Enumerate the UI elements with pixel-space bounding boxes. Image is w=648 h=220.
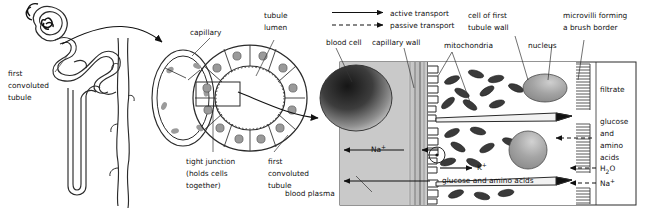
- label-glucose-in-line1: glucose: [600, 117, 629, 126]
- label-glucose-in-line4: acids: [600, 153, 619, 162]
- capillary-nucleus: [160, 101, 168, 110]
- label-first-convoluted-tubule-mid-line2: convoluted: [268, 169, 309, 178]
- leader-capillary: [192, 38, 210, 56]
- label-capillary-wall: capillary wall: [372, 38, 420, 47]
- loop-of-henle: [68, 86, 100, 195]
- figure-root: first convoluted tubule: [0, 0, 648, 220]
- blood-cell: [320, 65, 392, 131]
- zoom-arrow-overview-to-cross-section: [62, 26, 162, 44]
- panel-tubule-cell-detail: active transport passive transport: [285, 9, 636, 206]
- label-capillary: capillary: [190, 28, 222, 37]
- glomerulus: [26, 4, 67, 41]
- label-glucose-in-line3: amino: [600, 141, 623, 150]
- panel-nephron-overview: first convoluted tubule: [8, 4, 162, 208]
- label-blood-cell: blood cell: [326, 38, 362, 47]
- label-tight-junction-line3: together): [186, 181, 221, 190]
- label-blood-plasma: blood plasma: [285, 189, 335, 198]
- label-glucose-amino-acids-out: glucose and amino acids: [442, 176, 534, 185]
- capillary-nucleus: [170, 127, 179, 134]
- label-nucleus: nucleus: [528, 41, 557, 50]
- pump-dot: [435, 153, 438, 156]
- label-microvilli-line2: a brush border: [563, 23, 619, 32]
- legend-passive-transport-label: passive transport: [390, 21, 454, 30]
- legend: active transport passive transport: [332, 9, 454, 31]
- label-cell-of-first-tubule-wall-line2: tubule wall: [468, 23, 509, 32]
- lumen-brush-border-dots: [216, 67, 284, 129]
- leader-first-convoluted-tubule-mid: [274, 135, 288, 152]
- label-microvilli-line1: microvilli forming: [563, 11, 628, 20]
- tubule-cell-boundaries: [195, 45, 305, 151]
- label-tubule-lumen-line2: lumen: [264, 23, 287, 32]
- label-first-convoluted-tubule-left-line1: first: [8, 69, 23, 78]
- nucleus-upper: [523, 74, 567, 102]
- label-first-convoluted-tubule-left-line3: tubule: [8, 93, 32, 102]
- first-convoluted-tubule-shape: [53, 38, 120, 95]
- legend-active-transport-label: active transport: [390, 9, 449, 18]
- label-tight-junction-line1: tight junction: [186, 157, 236, 166]
- label-glucose-in-line2: and: [600, 129, 614, 138]
- nucleus-lower: [509, 131, 547, 169]
- label-tight-junction-line2: (holds cells: [186, 169, 228, 178]
- capillary-wall: [408, 62, 428, 205]
- label-first-convoluted-tubule-left-line2: convoluted: [8, 81, 49, 90]
- tubule-cross-section: [193, 45, 307, 151]
- diagram-canvas: first convoluted tubule: [0, 0, 648, 220]
- label-mitochondria: mitochondria: [444, 41, 493, 50]
- label-tubule-lumen-line1: tubule: [264, 11, 288, 20]
- panel-tubule-cross-section: capillary tubule lumen tight junction (h…: [152, 11, 318, 190]
- label-first-convoluted-tubule-mid-line1: first: [268, 157, 283, 166]
- label-cell-of-first-tubule-wall-line1: cell of first: [468, 11, 507, 20]
- label-filtrate: filtrate: [600, 85, 625, 94]
